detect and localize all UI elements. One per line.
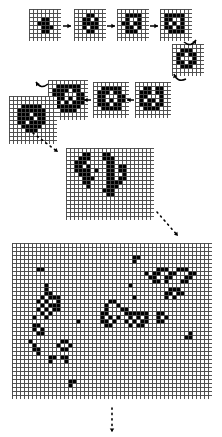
automaton-grid-p3 [117,9,149,41]
automaton-grid-p5 [172,44,204,76]
grid-canvas [9,96,57,144]
automaton-grid-p10 [66,148,154,220]
automaton-grid-p4 [160,9,192,41]
arrow-head [111,24,115,28]
automaton-grid-p1 [29,9,61,41]
arrow-a1 [63,24,71,28]
arrow-shaft [36,82,48,87]
automaton-grid-p2 [74,9,106,41]
automaton-grid-p6 [135,82,171,118]
grid-canvas [172,44,204,76]
arrow-shaft [157,212,178,236]
automaton-grid-p9 [9,96,57,144]
grid-canvas [135,82,171,118]
arrow-head [54,148,58,152]
arrow-head [154,24,158,28]
arrow-head [110,428,114,432]
grid-canvas [74,9,106,41]
arrow-a8 [36,82,48,87]
arrow-a10 [157,212,178,236]
arrow-a3 [150,24,158,28]
arrow-a2 [107,24,115,28]
arrow-head [67,24,71,28]
grid-canvas [29,9,61,41]
grid-canvas [66,148,154,220]
automaton-grid-p11 [12,243,212,399]
grid-canvas [93,82,129,118]
arrow-head [36,82,40,86]
arrow-head [174,232,178,236]
arrow-a11 [110,408,114,432]
cellular-automaton-figure [0,0,222,437]
grid-canvas [160,9,192,41]
grid-canvas [12,243,212,399]
grid-canvas [117,9,149,41]
automaton-grid-p7 [93,82,129,118]
